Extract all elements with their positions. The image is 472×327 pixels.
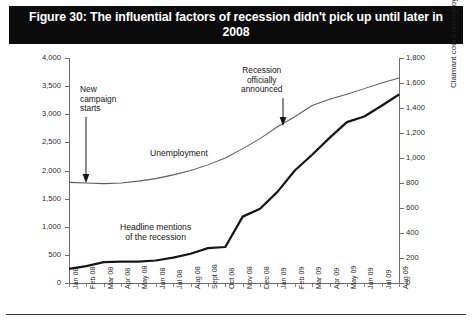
page-title: Figure 30: The influential factors of re… xyxy=(19,10,453,39)
y-axis-left-tick-mark xyxy=(65,58,69,59)
x-axis-tick-label: Dec 08 xyxy=(263,266,270,289)
x-axis-tick-mark xyxy=(295,284,296,287)
y-axis-left-tick-label: 4,000 xyxy=(42,54,61,62)
y-axis-left-tick-mark xyxy=(65,227,69,228)
x-axis-tick-label: Sept 08 xyxy=(211,264,218,289)
y-axis-right-tick-mark xyxy=(400,158,404,159)
y-axis-left-tick-mark xyxy=(65,199,69,200)
y-axis-left-tick-mark xyxy=(65,86,69,87)
x-axis-tick-label: Mar 08 xyxy=(107,267,114,289)
y-axis-right-tick-mark xyxy=(400,208,404,209)
y-axis-left-spine xyxy=(69,58,70,283)
y-axis-left-tick-mark xyxy=(65,255,69,256)
y-axis-right-tick-label: 1,400 xyxy=(406,104,425,112)
y-axis-right-tick-label: 200 xyxy=(406,254,419,262)
series-line-headlines xyxy=(69,95,399,269)
y-axis-right-tick-mark xyxy=(400,83,404,84)
y-axis-right-tick-label: 1,800 xyxy=(406,54,425,62)
y-axis-left-tick-label: 3,000 xyxy=(42,110,61,118)
x-axis-tick-label: Mar 09 xyxy=(315,267,322,289)
x-axis-tick-label: Feb 08 xyxy=(89,267,96,289)
y-axis-right-tick-mark xyxy=(400,183,404,184)
y-axis-right-tick-label: 1,000 xyxy=(406,154,425,162)
x-axis-tick-label: Feb 09 xyxy=(298,267,305,289)
y-axis-right-tick-label: 1,200 xyxy=(406,129,425,137)
y-axis-right-tick-label: 800 xyxy=(406,179,419,187)
series-line-unemployment xyxy=(69,78,399,184)
x-axis-tick-label: Jan 09 xyxy=(280,267,287,289)
y-axis-right-title: Claimant count unemployments (000s) xyxy=(449,0,458,88)
x-axis-tick-mark xyxy=(347,284,348,287)
x-axis-tick-mark xyxy=(121,284,122,287)
x-axis-tick-mark xyxy=(243,284,244,287)
x-axis-tick-label: Jul 08 xyxy=(176,270,183,289)
x-axis-tick-mark xyxy=(399,284,400,287)
y-axis-right-tick-mark xyxy=(400,233,404,234)
y-axis-right-tick-mark xyxy=(400,258,404,259)
figure-title-bar: Figure 30: The influential factors of re… xyxy=(9,6,463,44)
recession-arrow-icon xyxy=(280,98,287,126)
series-label-headlines: Headline mentions of the recession xyxy=(120,222,191,242)
y-axis-left-tick-mark xyxy=(65,142,69,143)
x-axis-tick-label: Aug 08 xyxy=(194,266,201,289)
x-axis-tick-mark xyxy=(382,284,383,287)
y-axis-left-tick-label: 1,000 xyxy=(42,223,61,231)
figure-container: Figure 30: The influential factors of re… xyxy=(0,0,472,327)
y-axis-left-tick-label: 0 xyxy=(57,279,61,287)
y-axis-right-tick-label: 400 xyxy=(406,229,419,237)
x-axis-tick-mark xyxy=(208,284,209,287)
x-axis-tick-mark xyxy=(191,284,192,287)
y-axis-right-tick-mark xyxy=(400,133,404,134)
y-axis-left-tick-label: 3,500 xyxy=(42,82,61,90)
y-axis-left-tick-label: 500 xyxy=(48,251,61,259)
y-axis-right-tick-label: 600 xyxy=(406,204,419,212)
x-axis-tick-label: Jun 09 xyxy=(367,267,374,289)
x-axis-tick-label: Jun 08 xyxy=(159,267,166,289)
x-axis-tick-label: May 09 xyxy=(350,265,357,289)
x-axis-tick-label: Apr 09 xyxy=(333,268,340,289)
x-axis-tick-label: May 08 xyxy=(141,265,148,289)
series-label-unemployment: Unemployment xyxy=(150,148,208,158)
x-axis-tick-label: Jan 08 xyxy=(72,267,79,289)
x-axis-tick-label: Nov 08 xyxy=(246,266,253,289)
x-axis-tick-mark xyxy=(69,284,70,287)
annotation-new-campaign: New campaign starts xyxy=(80,85,116,114)
x-axis-tick-label: Jul 09 xyxy=(385,270,392,289)
annotation-recession-announced: Recession officially announced xyxy=(241,66,282,95)
x-axis-tick-mark xyxy=(312,284,313,287)
x-axis-tick-mark xyxy=(156,284,157,287)
x-axis-tick-mark xyxy=(330,284,331,287)
y-axis-right-tick-mark xyxy=(400,108,404,109)
y-axis-right-tick-label: 1,600 xyxy=(406,79,425,87)
x-axis-tick-mark xyxy=(260,284,261,287)
y-axis-left-tick-label: 2,500 xyxy=(42,138,61,146)
y-axis-left-tick-mark xyxy=(65,114,69,115)
y-axis-left-tick-label: 2,000 xyxy=(42,167,61,175)
y-axis-left-tick-label: 1,500 xyxy=(42,195,61,203)
y-axis-left-tick-mark xyxy=(65,171,69,172)
footer-divider xyxy=(6,314,466,315)
campaign-arrow-icon xyxy=(83,117,90,183)
x-axis-tick-label: Apr 08 xyxy=(124,268,131,289)
x-axis-tick-mark xyxy=(104,284,105,287)
y-axis-right-tick-mark xyxy=(400,58,404,59)
x-axis-tick-label: Aug 09 xyxy=(402,266,409,289)
x-axis-tick-label: Oct 08 xyxy=(228,268,235,289)
y-axis-right-spine xyxy=(399,58,400,283)
